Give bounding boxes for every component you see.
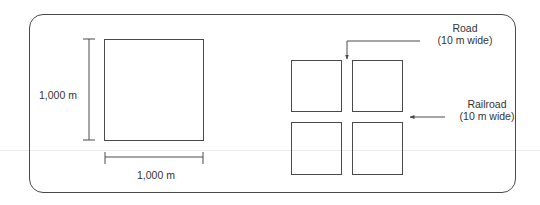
quadrant-bottom-right xyxy=(352,122,403,175)
road-label-line1: Road xyxy=(420,22,510,34)
road-label: Road (10 m wide) xyxy=(420,22,510,46)
quadrant-bottom-left xyxy=(291,122,342,175)
railroad-label: Railroad (10 m wide) xyxy=(442,98,532,122)
road-label-line2: (10 m wide) xyxy=(420,34,510,46)
railroad-label-line1: Railroad xyxy=(442,98,532,110)
large-square-parcel xyxy=(104,39,204,141)
width-label: 1,000 m xyxy=(137,169,175,181)
quadrant-top-left xyxy=(291,60,342,112)
height-label: 1,000 m xyxy=(39,89,77,101)
railroad-label-line2: (10 m wide) xyxy=(442,110,532,122)
quadrant-top-right xyxy=(352,60,403,112)
